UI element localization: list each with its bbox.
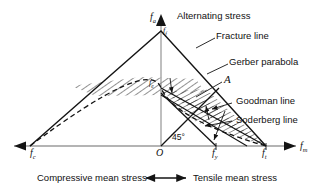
caption-tensile: Tensile mean stress bbox=[193, 173, 277, 183]
y-axis-caption: Alternating stress bbox=[177, 11, 250, 21]
label-origin: O bbox=[156, 148, 163, 158]
x-axis-arrowhead bbox=[284, 142, 296, 151]
callout-fracture-line: Fracture line bbox=[216, 31, 269, 41]
x-axis-symbol: fm bbox=[300, 141, 307, 154]
y-axis-symbol: fa bbox=[150, 12, 156, 25]
label-ft: ft bbox=[262, 148, 267, 161]
label-angle-45: 45° bbox=[172, 133, 185, 142]
y-axis-arrowhead bbox=[156, 14, 166, 26]
figure-canvas: fa Alternating stress ff fe Fracture lin… bbox=[0, 0, 334, 191]
fracture-line-leader bbox=[196, 38, 215, 48]
x-axis-left-arrowhead bbox=[14, 142, 26, 151]
callout-soderberg-line: Soderberg line bbox=[236, 115, 298, 125]
label-fy: fy bbox=[212, 148, 218, 161]
callout-goodman-line: Goodman line bbox=[236, 96, 295, 106]
callout-point-a: A bbox=[224, 74, 231, 85]
label-fe: fe bbox=[149, 79, 154, 89]
callout-gerber-parabola: Gerber parabola bbox=[229, 57, 298, 67]
label-fc: fc bbox=[30, 148, 36, 161]
label-ff: ff bbox=[163, 27, 167, 37]
caption-compressive: Compressive mean stress bbox=[37, 173, 147, 183]
